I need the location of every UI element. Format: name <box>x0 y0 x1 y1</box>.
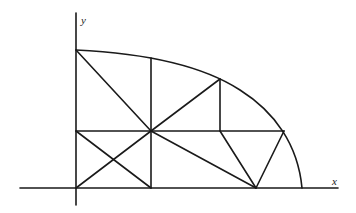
edge-center-to-curve <box>151 79 220 131</box>
x-axis-label: x <box>331 175 337 187</box>
boundary-arc <box>76 50 302 188</box>
edge-curve-to-apex <box>256 131 284 188</box>
quarter-disk-mesh-diagram: y x <box>0 0 356 213</box>
edge-right-to-apex <box>220 131 256 188</box>
y-axis-label: y <box>80 14 86 26</box>
edge-center-to-apex <box>151 131 256 188</box>
edge-top-to-center <box>76 50 151 131</box>
